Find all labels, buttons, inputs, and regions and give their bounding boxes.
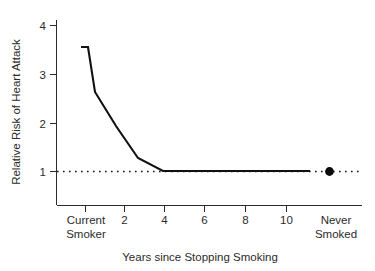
y-tick-label-2: 2 — [40, 118, 46, 130]
y-tick-label-1: 1 — [40, 166, 46, 178]
x-tick-label-4: 4 — [161, 214, 168, 226]
x-category-label-never-smoked-line2: Smoked — [315, 228, 357, 240]
y-axis-ticks — [50, 26, 57, 172]
x-category-label-current-smoker-line1: Current — [67, 214, 106, 226]
x-axis-title: Years since Stopping Smoking — [122, 251, 278, 263]
y-tick-label-3: 3 — [40, 69, 46, 81]
chart-container: 4 3 2 1 2 4 6 8 10 Current Smoker Never … — [0, 0, 375, 271]
x-tick-label-8: 8 — [242, 214, 248, 226]
y-tick-label-4: 4 — [40, 20, 47, 32]
x-axis-ticks — [86, 206, 287, 213]
x-category-label-never-smoked-line1: Never — [321, 214, 352, 226]
risk-decline-line — [81, 47, 310, 171]
x-tick-label-6: 6 — [201, 214, 207, 226]
never-smoked-data-point — [325, 167, 334, 176]
y-axis-title: Relative Risk of Heart Attack — [10, 39, 22, 185]
relative-risk-line-chart: 4 3 2 1 2 4 6 8 10 Current Smoker Never … — [0, 0, 375, 271]
x-tick-label-10: 10 — [280, 214, 293, 226]
x-tick-label-2: 2 — [121, 214, 127, 226]
x-category-label-current-smoker-line2: Smoker — [66, 228, 106, 240]
